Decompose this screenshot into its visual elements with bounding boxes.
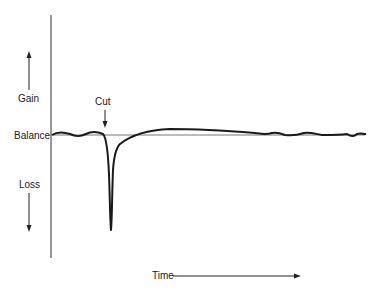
response-curve — [52, 129, 366, 230]
balance-label: Balance — [14, 130, 50, 142]
cut-label: Cut — [95, 96, 111, 108]
cut-arrow-icon — [103, 110, 108, 128]
diagram-canvas — [0, 0, 380, 291]
gain-arrow-icon — [27, 51, 32, 90]
loss-arrow-icon — [27, 193, 32, 232]
loss-label: Loss — [19, 179, 40, 191]
gain-label: Gain — [18, 93, 39, 105]
time-arrow-icon — [173, 274, 301, 279]
time-label: Time — [152, 270, 174, 282]
